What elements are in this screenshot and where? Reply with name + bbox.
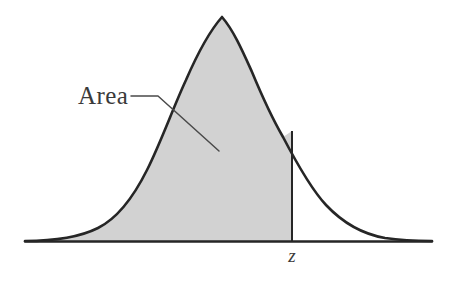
area-label: Area	[78, 82, 128, 109]
z-axis-label: z	[287, 245, 296, 266]
figure-container: Area z	[0, 0, 456, 282]
normal-distribution-chart: Area z	[0, 0, 456, 282]
